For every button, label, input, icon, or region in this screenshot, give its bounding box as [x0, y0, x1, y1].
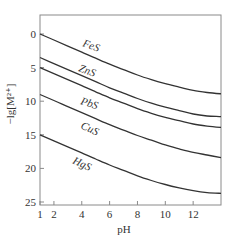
y-tick-label: 10	[25, 95, 37, 107]
x-tick-label: 2	[51, 208, 57, 220]
y-axis-ticks: 0510152025	[25, 28, 44, 208]
y-tick-label: 15	[25, 129, 37, 141]
y-tick-label: 0	[31, 28, 37, 40]
series-label-fes: FeS	[80, 36, 102, 54]
x-tick-label: 8	[135, 208, 141, 220]
x-tick-label: 10	[160, 208, 172, 220]
chart: 0510152025 124681012 FeSZnSPbSCuSHgS pH …	[0, 0, 233, 248]
y-axis-label: −lg[M²⁺]	[4, 84, 16, 125]
series-curves	[40, 34, 221, 193]
x-tick-label: 12	[188, 208, 199, 220]
x-tick-label: 4	[79, 208, 85, 220]
curve-pbs	[40, 68, 221, 128]
curve-zns	[40, 58, 221, 117]
plot-frame	[40, 15, 221, 205]
x-axis-ticks: 124681012	[37, 201, 198, 220]
series-label-pbs: PbS	[78, 94, 100, 111]
curve-fes	[40, 34, 221, 94]
x-axis-label: pH	[117, 223, 131, 235]
x-tick-label: 6	[107, 208, 113, 220]
series-label-zns: ZnS	[77, 62, 98, 79]
series-label-cus: CuS	[79, 119, 101, 138]
x-tick-label: 1	[37, 208, 43, 220]
curve-hgs	[40, 135, 221, 194]
y-tick-label: 25	[25, 196, 37, 208]
y-tick-label: 20	[25, 162, 37, 174]
curve-cus	[40, 95, 221, 158]
series-labels: FeSZnSPbSCuSHgS	[70, 36, 102, 173]
y-tick-label: 5	[31, 62, 37, 74]
